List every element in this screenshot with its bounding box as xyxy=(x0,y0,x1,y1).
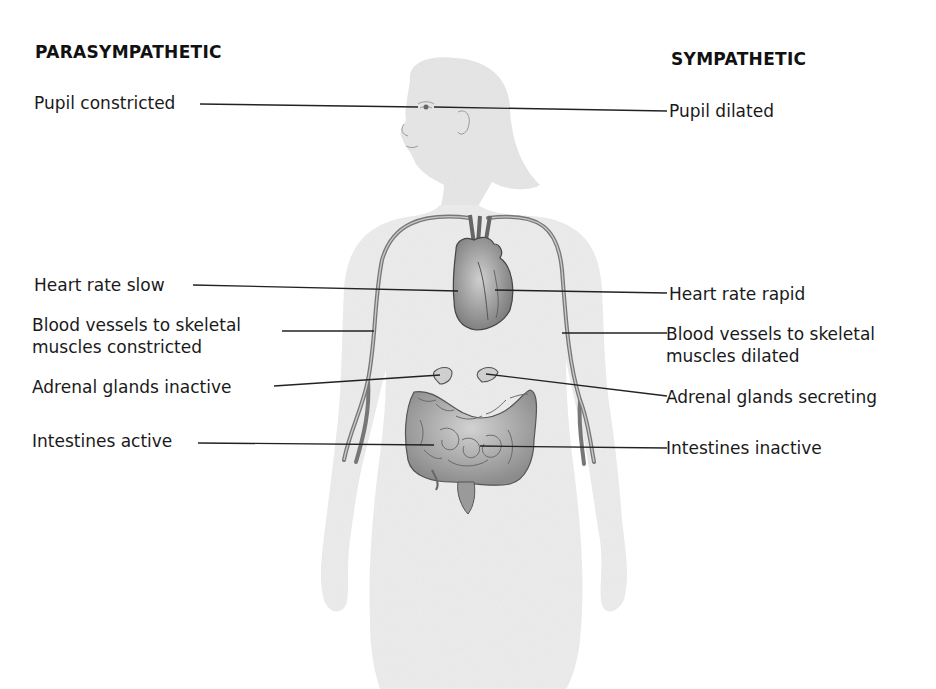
label-blood-vessels-constricted: Blood vessels to skeletal muscles constr… xyxy=(32,314,241,358)
label-line-1: Blood vessels to skeletal xyxy=(666,323,875,345)
parasympathetic-heading: PARASYMPATHETIC xyxy=(35,42,222,62)
label-line-2: muscles constricted xyxy=(32,336,241,358)
label-line-1: Blood vessels to skeletal xyxy=(32,314,241,336)
body-silhouette xyxy=(321,57,627,689)
label-heart-rate-rapid: Heart rate rapid xyxy=(669,283,805,305)
autonomic-nervous-system-diagram: PARASYMPATHETIC SYMPATHETIC Pupil constr… xyxy=(0,0,936,689)
label-intestines-inactive: Intestines inactive xyxy=(666,437,822,459)
label-heart-rate-slow: Heart rate slow xyxy=(34,274,165,296)
label-blood-vessels-dilated: Blood vessels to skeletal muscles dilate… xyxy=(666,323,875,367)
label-adrenal-glands-inactive: Adrenal glands inactive xyxy=(32,376,231,398)
label-pupil-constricted: Pupil constricted xyxy=(34,92,175,114)
label-intestines-active: Intestines active xyxy=(32,430,172,452)
label-line-2: muscles dilated xyxy=(666,345,875,367)
sympathetic-heading: SYMPATHETIC xyxy=(671,49,806,69)
label-adrenal-glands-secreting: Adrenal glands secreting xyxy=(666,386,877,408)
eye-icon xyxy=(424,105,429,110)
label-pupil-dilated: Pupil dilated xyxy=(669,100,774,122)
